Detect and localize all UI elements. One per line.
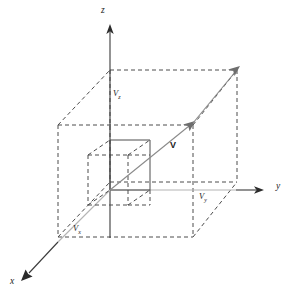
outer-box-edge-top-left: [58, 70, 110, 125]
axis-x-label: x: [10, 277, 14, 287]
vector-v: [110, 66, 240, 190]
vector-decomposition-figure: z y x Vz Vy Vx V: [0, 0, 293, 296]
component-vz-subscript: z: [118, 94, 120, 100]
inner-box-edge-bottom-right: [128, 190, 150, 205]
axis-x-line-outer: [29, 242, 58, 273]
axis-x: [21, 190, 110, 281]
inner-box-edge-top-right: [128, 140, 150, 155]
vector-v-extension: [193, 71, 236, 123]
outer-box-edge-bottom-left: [58, 182, 110, 237]
axis-z-label: z: [101, 6, 105, 16]
component-vy-label: Vy: [199, 192, 207, 203]
component-vy-subscript: y: [204, 197, 207, 203]
component-vx-subscript: x: [78, 229, 81, 235]
axis-z: [106, 24, 113, 238]
axis-y-label: y: [276, 182, 280, 192]
component-vz-label: Vz: [113, 89, 121, 100]
axis-x-line-inner: [58, 190, 110, 242]
figure-canvas: [0, 0, 293, 296]
outer-box: [58, 70, 237, 237]
component-vx-label: Vx: [73, 224, 81, 235]
inner-box-edge-bottom-left: [88, 190, 110, 205]
vector-v-label: V: [170, 141, 176, 150]
inner-box-edge-top-left: [88, 140, 110, 155]
